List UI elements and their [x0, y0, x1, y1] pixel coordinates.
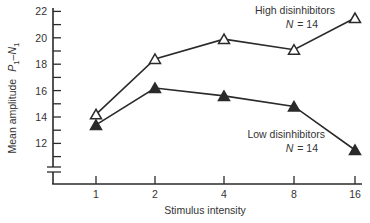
y-tick-label: 16: [35, 85, 47, 97]
open-triangle-marker: [219, 34, 230, 44]
axis-break-gap: [47, 167, 61, 172]
legend-high-label: High disinhibitors: [255, 4, 335, 16]
legend-high-n: N= 14: [286, 18, 318, 30]
y-tick-label: 14: [35, 111, 47, 123]
y-tick-label: 18: [35, 58, 47, 70]
axes: 121416182022124816: [35, 5, 362, 200]
line-chart: 121416182022124816 Stimulus intensity Me…: [0, 0, 370, 223]
y-tick-label: 22: [35, 5, 47, 17]
y-tick-label: 12: [35, 137, 47, 149]
x-tick-label: 2: [152, 188, 158, 200]
legend-low-n: N= 14: [286, 142, 318, 154]
x-tick-label: 8: [291, 188, 297, 200]
svg-text:Mean amplitude P1–N1: Mean amplitude P1–N1: [6, 42, 21, 154]
x-tick-label: 16: [349, 188, 361, 200]
open-triangle-marker: [150, 54, 161, 64]
y-axis-label-main: Mean amplitude: [6, 79, 18, 154]
x-axis-label: Stimulus intensity: [164, 204, 246, 216]
open-triangle-marker: [350, 13, 361, 23]
filled-triangle-marker: [91, 120, 102, 130]
legend-low-label: Low disinhibitors: [247, 128, 325, 140]
y-label-n-sub: 1: [12, 42, 21, 47]
y-tick-label: 20: [35, 32, 47, 44]
x-tick-label: 4: [221, 188, 227, 200]
chart-canvas: 121416182022124816 Stimulus intensity Me…: [0, 0, 370, 223]
x-tick-label: 1: [93, 188, 99, 200]
y-label-p: P: [6, 65, 18, 72]
y-axis-label: Mean amplitude P1–N1: [6, 42, 21, 154]
